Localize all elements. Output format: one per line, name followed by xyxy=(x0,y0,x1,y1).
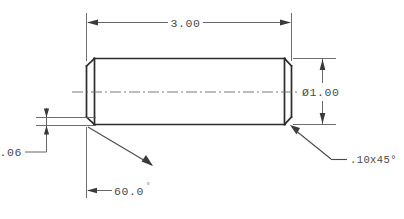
chamfer-width-value: .06 xyxy=(0,146,22,159)
diameter-value: Ø1.00 xyxy=(302,86,340,99)
arrowhead-down-icon xyxy=(320,113,326,124)
cad-drawing-svg: 3.00 xyxy=(0,0,404,219)
arrowhead-right-icon xyxy=(280,20,291,26)
diameter-dimension: Ø1.00 xyxy=(293,59,352,125)
chamfer-note-text: .10x45° xyxy=(350,154,397,166)
angle-leader-line xyxy=(88,127,152,165)
technical-drawing-canvas: 3.00 xyxy=(0,0,404,219)
angle-arrowhead-icon xyxy=(142,155,154,166)
chamfer-note-leader-angled xyxy=(295,130,331,159)
overall-length-dimension: 3.00 xyxy=(87,13,292,61)
pin-body xyxy=(86,58,292,125)
overall-length-value: 3.00 xyxy=(170,17,200,30)
pin-body-fill xyxy=(86,58,292,125)
arrowhead-inward-top-icon xyxy=(44,109,49,118)
arrowhead-left-icon xyxy=(87,20,98,26)
arrowhead-up-icon xyxy=(320,59,326,70)
chamfer-note: .10x45° xyxy=(290,125,397,166)
point-angle-degree-symbol: ° xyxy=(146,182,151,190)
angle-arrowhead-left-icon xyxy=(87,188,97,193)
chamfer-width-dimension: .06 xyxy=(0,108,96,159)
point-angle-value: 60.0 xyxy=(114,185,144,198)
arrowhead-inward-bottom-icon xyxy=(44,126,49,135)
point-angle-dimension: 60.0 ° xyxy=(87,127,154,198)
